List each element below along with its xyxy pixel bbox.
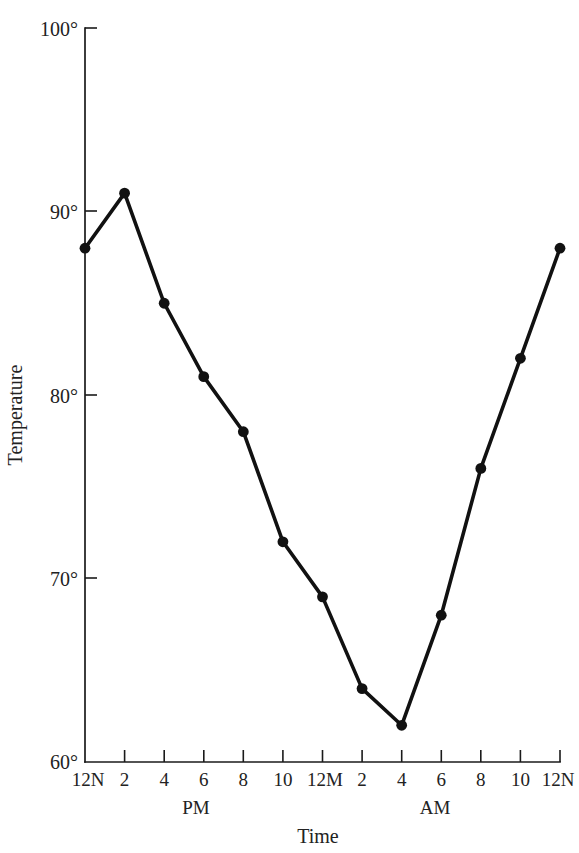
x-axis-period-label-am: AM <box>420 797 451 818</box>
data-point <box>436 610 447 621</box>
x-axis-tick-labels: 12N 2 4 6 8 10 12M 2 4 6 8 10 12N <box>72 769 575 790</box>
x-tick-label-9: 6 <box>437 769 447 790</box>
x-tick-label-3: 6 <box>199 769 209 790</box>
data-point <box>80 243 91 254</box>
x-tick-label-8: 4 <box>397 769 407 790</box>
data-point <box>317 591 328 602</box>
y-tick-label-80: 80° <box>50 385 78 407</box>
x-axis-ticks <box>125 750 560 762</box>
x-axis-period-label-pm: PM <box>182 797 210 818</box>
chart-canvas: 100° 90° 80° 70° 60° Temperature 12N 2 <box>0 0 579 853</box>
data-point <box>357 683 368 694</box>
y-tick-label-90: 90° <box>50 201 78 223</box>
data-point <box>396 720 407 731</box>
y-tick-label-70: 70° <box>50 568 78 590</box>
x-tick-label-11: 10 <box>511 769 530 790</box>
data-point <box>278 536 289 547</box>
data-point <box>119 188 130 199</box>
y-axis-tick-labels: 100° 90° 80° 70° 60° <box>40 18 78 773</box>
temperature-series-line <box>85 193 560 725</box>
x-tick-label-10: 8 <box>476 769 486 790</box>
data-point <box>159 298 170 309</box>
data-point <box>515 353 526 364</box>
x-tick-label-1: 2 <box>120 769 130 790</box>
x-tick-label-4: 8 <box>239 769 249 790</box>
y-tick-label-100: 100° <box>40 18 78 40</box>
x-tick-label-0: 12N <box>72 769 105 790</box>
x-tick-label-12: 12N <box>542 769 575 790</box>
data-point <box>238 426 249 437</box>
y-axis-ticks <box>85 28 97 578</box>
data-point <box>555 243 566 254</box>
y-axis-title: Temperature <box>4 364 27 465</box>
x-tick-label-2: 4 <box>159 769 169 790</box>
x-tick-label-5: 10 <box>273 769 292 790</box>
data-point <box>198 371 209 382</box>
x-tick-label-7: 2 <box>357 769 367 790</box>
data-point <box>475 463 486 474</box>
temperature-vs-time-chart: 100° 90° 80° 70° 60° Temperature 12N 2 <box>0 0 579 853</box>
x-axis-title: Time <box>297 825 339 847</box>
x-tick-label-6: 12M <box>307 769 343 790</box>
